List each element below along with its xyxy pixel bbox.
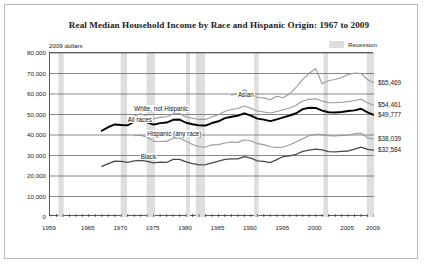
series-annotation: Asian — [237, 91, 255, 98]
y-axis-unit-label: 2009 dollars — [49, 42, 83, 49]
chart-frame: Real Median Household Income by Race and… — [4, 4, 418, 259]
x-tick-label: 1985 — [211, 224, 225, 231]
y-tick-label: 80,000 — [27, 49, 46, 56]
x-tick-label: 1990 — [243, 224, 257, 231]
end-value-label: $65,469 — [378, 79, 401, 86]
y-tick-label: 50,000 — [27, 110, 46, 117]
y-tick-label: 70,000 — [27, 69, 46, 76]
end-value-label: $54,461 — [378, 101, 401, 108]
x-tick-label: 1995 — [275, 224, 289, 231]
plot-area — [49, 52, 373, 216]
chart-legend: Recession — [329, 41, 377, 48]
series-annotation: Black — [140, 153, 157, 160]
end-value-label: $32,584 — [378, 146, 401, 153]
x-tick-label: 2000 — [308, 224, 322, 231]
chart-svg — [50, 53, 374, 217]
y-tick-label: 40,000 — [27, 131, 46, 138]
x-tick-label: 1980 — [178, 224, 192, 231]
x-tick-label: 1959 — [42, 224, 56, 231]
y-axis-tick-labels: 010,00020,00030,00040,00050,00060,00070,… — [5, 52, 46, 216]
y-tick-label: 60,000 — [27, 90, 46, 97]
end-value-label: $38,039 — [378, 135, 401, 142]
x-tick-label: 2005 — [340, 224, 354, 231]
legend-label-recession: Recession — [348, 41, 377, 48]
y-tick-label: 30,000 — [27, 151, 46, 158]
series-annotation: All races — [127, 116, 153, 123]
x-tick-label: 1975 — [146, 224, 160, 231]
x-tick-label: 1965 — [81, 224, 95, 231]
series-annotation: White, not Hispanic — [133, 105, 189, 112]
page-title: Real Median Household Income by Race and… — [49, 20, 389, 30]
y-tick-label: 0 — [43, 213, 46, 220]
x-tick-label: 1970 — [113, 224, 127, 231]
x-tick-label: 2009 — [366, 224, 380, 231]
recession-swatch-icon — [329, 41, 344, 48]
series-annotation: Hispanic (any race) — [146, 130, 202, 137]
y-tick-label: 20,000 — [27, 172, 46, 179]
end-value-label: $49,777 — [378, 111, 401, 118]
y-tick-label: 10,000 — [27, 192, 46, 199]
x-axis-tick-labels: 1959196519701975198019851990199520002005… — [49, 216, 375, 240]
